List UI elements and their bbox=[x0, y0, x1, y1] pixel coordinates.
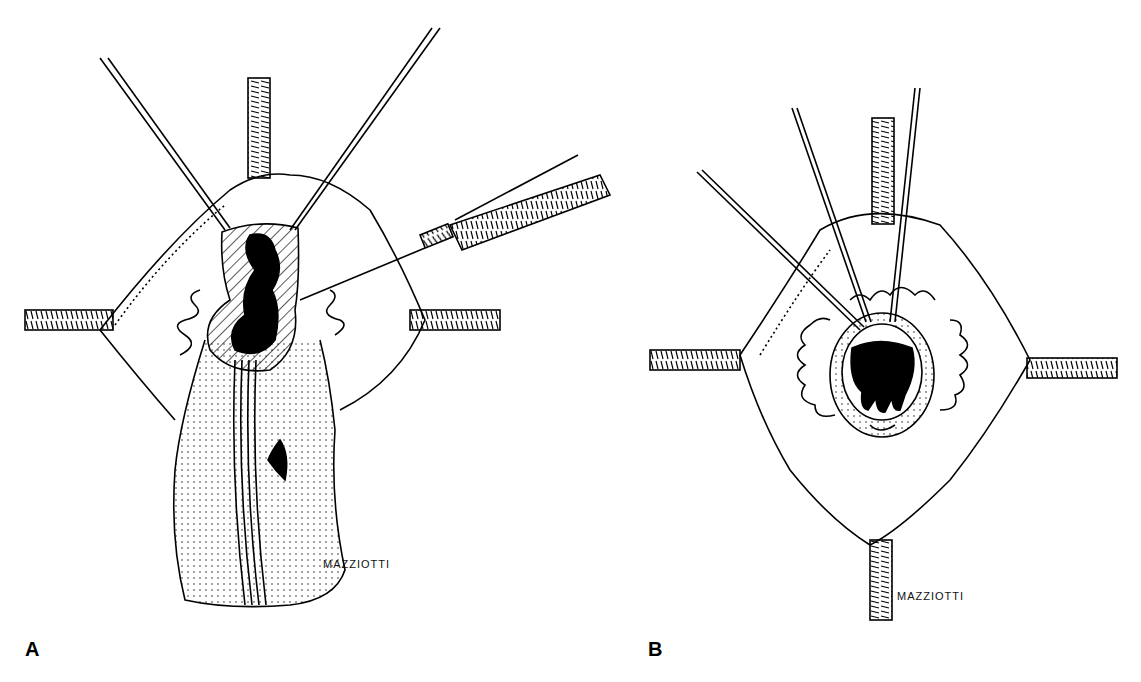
top-retractor-icon bbox=[872, 118, 894, 224]
left-retractor-icon bbox=[25, 310, 113, 330]
artist-signature-a: MAZZIOTTI bbox=[323, 558, 390, 570]
right-retractor-icon bbox=[410, 310, 500, 330]
right-retractor-icon bbox=[1027, 358, 1117, 378]
left-retractor-icon bbox=[650, 350, 740, 370]
surgical-illustration bbox=[0, 0, 1141, 682]
syringe-icon bbox=[450, 175, 610, 250]
panel-b-drawing bbox=[650, 88, 1117, 620]
bottom-retractor-icon bbox=[870, 540, 892, 620]
artist-signature-b: MAZZIOTTI bbox=[897, 590, 964, 602]
panel-label-b: B bbox=[648, 638, 662, 661]
panel-label-a: A bbox=[25, 638, 39, 661]
panel-a-drawing bbox=[25, 28, 610, 607]
top-retractor-icon bbox=[248, 78, 270, 178]
